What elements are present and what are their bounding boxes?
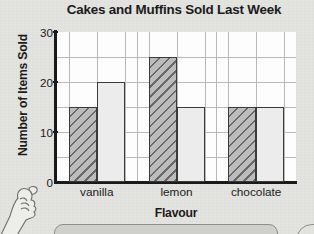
gridline-vertical — [216, 32, 217, 182]
y-axis-line — [54, 30, 57, 184]
y-tick-label: 30 — [31, 26, 53, 39]
y-tick-mark — [53, 131, 58, 133]
answer-box — [54, 224, 278, 234]
bar-vanilla-muffins — [97, 82, 125, 182]
y-tick-label: 20 — [31, 76, 53, 89]
gridline-vertical — [205, 32, 206, 182]
bar-lemon-muffins — [177, 107, 205, 182]
x-tick-label-lemon: lemon — [132, 185, 222, 199]
y-axis-label: Number of Items Sold — [16, 20, 30, 170]
y-tick-mark — [53, 31, 58, 33]
gridline-vertical — [125, 32, 126, 182]
chart-title: Cakes and Muffins Sold Last Week — [38, 2, 310, 17]
bar-chocolate-cakes — [228, 107, 256, 182]
gridline-vertical — [284, 32, 285, 182]
bar-vanilla-cakes — [69, 107, 97, 182]
y-tick-label: 10 — [31, 126, 53, 139]
gridline-vertical — [137, 32, 138, 182]
bar-lemon-cakes — [149, 57, 177, 182]
x-axis-label: Flavour — [56, 206, 296, 220]
y-tick-mark — [53, 81, 58, 83]
x-tick-label-chocolate: chocolate — [211, 185, 301, 199]
bar-chocolate-muffins — [256, 107, 284, 182]
